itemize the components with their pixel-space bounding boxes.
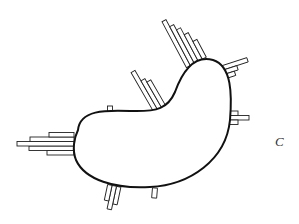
bar-cluster-bottom-left — [103, 184, 121, 210]
bar-cluster-left — [17, 133, 74, 156]
cell-histogram-diagram — [0, 0, 299, 224]
bar-single-bottom — [152, 188, 158, 198]
cell-outline — [74, 59, 231, 187]
panel-label: C — [275, 134, 284, 150]
